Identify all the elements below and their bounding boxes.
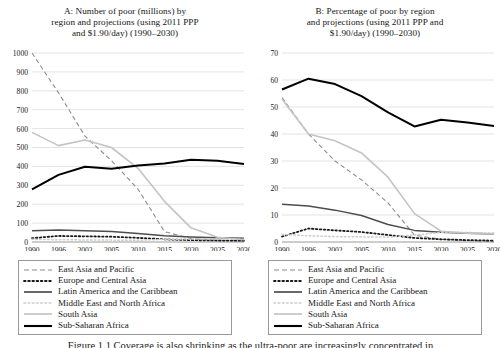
legend-item[interactable]: Latin America and the Caribbean — [273, 286, 476, 297]
x-tick-label: 2002 — [77, 246, 92, 252]
series-line — [282, 79, 494, 127]
legend-item[interactable]: Middle East and North Africa — [23, 298, 226, 309]
legend-label-latin-america-caribbean: Latin America and the Caribbean — [308, 286, 427, 297]
legend-key-dotted-bold-icon — [273, 276, 303, 286]
chart-title-b: B: Percentage of poor by region and proj… — [250, 0, 500, 46]
legend-label-middle-east-north-africa: Middle East and North Africa — [308, 298, 415, 309]
x-tick-label: 2005 — [104, 246, 119, 252]
legend-item[interactable]: South Asia — [23, 309, 226, 320]
legend-key-dotted-bold-icon — [23, 276, 53, 286]
y-tick-label: 900 — [17, 68, 29, 77]
legend-item[interactable]: East Asia and Pacific — [273, 264, 476, 275]
legend-label-east-asia-pacific: East Asia and Pacific — [58, 264, 134, 275]
legend-item[interactable]: Europe and Central Asia — [273, 275, 476, 286]
plot-area-b: 0102030405060701990199620022005201020152… — [250, 46, 500, 251]
y-tick-label: 60 — [270, 76, 278, 85]
legend-label-south-asia: South Asia — [58, 309, 97, 320]
chart-title-b-line1: B: Percentage of poor by region — [268, 6, 482, 17]
legend-key-dashed-icon — [273, 265, 303, 275]
x-tick-label: 1996 — [301, 246, 316, 252]
x-tick-label: 2005 — [354, 246, 369, 252]
y-tick-label: 30 — [270, 157, 278, 166]
legend-key-solid-black-icon — [273, 321, 303, 331]
y-tick-label: 500 — [17, 143, 29, 152]
y-tick-label: 800 — [17, 87, 29, 96]
legend-item[interactable]: Latin America and the Caribbean — [23, 286, 226, 297]
series-line — [32, 132, 244, 239]
y-tick-label: 50 — [270, 103, 278, 112]
legend-item[interactable]: Europe and Central Asia — [23, 275, 226, 286]
legend-item[interactable]: Middle East and North Africa — [273, 298, 476, 309]
legend-label-middle-east-north-africa: Middle East and North Africa — [58, 298, 165, 309]
series-line — [32, 53, 244, 241]
chart-title-a: A: Number of poor (millions) by region a… — [0, 0, 250, 46]
plot-area-a: 0100200300400500600700800900100019901996… — [0, 46, 250, 251]
legend-key-dotted-light-icon — [23, 298, 53, 308]
y-tick-label: 600 — [17, 125, 29, 134]
legend-a: East Asia and Pacific Europe and Central… — [0, 258, 250, 332]
x-tick-label: 2010 — [130, 246, 145, 252]
legend-key-dotted-light-icon — [273, 298, 303, 308]
legend-label-europe-central-asia: Europe and Central Asia — [58, 275, 146, 286]
legend-label-south-asia: South Asia — [308, 309, 347, 320]
series-line — [282, 99, 494, 234]
y-tick-label: 20 — [270, 184, 278, 193]
legend-item[interactable]: East Asia and Pacific — [23, 264, 226, 275]
x-tick-label: 2002 — [327, 246, 342, 252]
x-tick-label: 1990 — [274, 246, 289, 252]
x-tick-label: 2030 — [236, 246, 250, 252]
legend-label-latin-america-caribbean: Latin America and the Caribbean — [58, 286, 177, 297]
chart-svg-b: 0102030405060701990199620022005201020152… — [250, 46, 500, 251]
figure-container: A: Number of poor (millions) by region a… — [0, 0, 501, 348]
legend-key-solid-light-icon — [273, 309, 303, 319]
legend-item[interactable]: Sub-Saharan Africa — [23, 320, 226, 331]
x-tick-label: 2020 — [433, 246, 448, 252]
series-line — [282, 98, 494, 242]
y-tick-label: 1000 — [13, 49, 28, 58]
y-tick-label: 100 — [17, 219, 29, 228]
x-tick-label: 1996 — [51, 246, 66, 252]
y-tick-label: 200 — [17, 200, 29, 209]
x-tick-label: 2010 — [380, 246, 395, 252]
chart-title-b-line3: $1.90/day) (1990–2030) — [268, 28, 482, 39]
legend-key-dashed-icon — [23, 265, 53, 275]
x-tick-label: 1990 — [24, 246, 39, 252]
y-tick-label: 700 — [17, 106, 29, 115]
legend-item[interactable]: Sub-Saharan Africa — [273, 320, 476, 331]
series-line — [282, 229, 494, 241]
x-tick-label: 2030 — [486, 246, 500, 252]
legend-b: East Asia and Pacific Europe and Central… — [250, 258, 500, 332]
legend-key-solid-light-icon — [23, 309, 53, 319]
y-tick-label: 40 — [270, 130, 278, 139]
figure-caption: Figure 1.1 Coverage is also shrinking as… — [0, 340, 501, 348]
y-tick-label: 300 — [17, 181, 29, 190]
legend-label-sub-saharan-africa: Sub-Saharan Africa — [58, 320, 129, 331]
legend-key-solid-dark-icon — [273, 287, 303, 297]
chart-title-a-line3: and $1.90/day) (1990–2030) — [18, 28, 232, 39]
chart-title-a-line2: region and projections (using 2011 PPP — [18, 17, 232, 28]
x-tick-label: 2020 — [183, 246, 198, 252]
y-tick-label: 10 — [270, 211, 278, 220]
chart-panel-b: B: Percentage of poor by region and proj… — [250, 0, 500, 348]
chart-title-a-line1: A: Number of poor (millions) by — [18, 6, 232, 17]
x-tick-label: 2015 — [407, 246, 422, 252]
legend-label-east-asia-pacific: East Asia and Pacific — [308, 264, 384, 275]
x-tick-label: 2025 — [460, 246, 475, 252]
chart-title-b-line2: and projections (using 2011 PPP and — [268, 17, 482, 28]
legend-label-europe-central-asia: Europe and Central Asia — [308, 275, 396, 286]
y-tick-label: 400 — [17, 162, 29, 171]
legend-label-sub-saharan-africa: Sub-Saharan Africa — [308, 320, 379, 331]
y-tick-label: 70 — [270, 49, 278, 58]
legend-item[interactable]: South Asia — [273, 309, 476, 320]
legend-key-solid-black-icon — [23, 321, 53, 331]
legend-key-solid-dark-icon — [23, 287, 53, 297]
x-tick-label: 2025 — [210, 246, 225, 252]
chart-panel-a: A: Number of poor (millions) by region a… — [0, 0, 250, 348]
chart-svg-a: 0100200300400500600700800900100019901996… — [0, 46, 250, 251]
x-tick-label: 2015 — [157, 246, 172, 252]
